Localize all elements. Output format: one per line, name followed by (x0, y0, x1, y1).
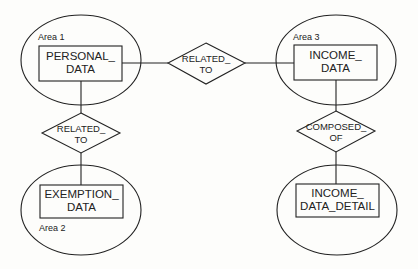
area-1-label: Area 1 (38, 31, 65, 44)
diagram-canvas: Area 1 Area 2 Area 3 PERSONAL_ DATA EXEM… (0, 0, 418, 269)
relationship-top-line1: RELATED_ (171, 53, 241, 64)
entity-exemption-data-label: EXEMPTION_ DATA (40, 188, 123, 214)
relationship-left-line2: TO (46, 134, 116, 145)
relationship-top-label: RELATED_ TO (171, 53, 241, 75)
relationship-right-label: COMPOSED_ OF (301, 121, 371, 143)
area-3-label: Area 3 (293, 31, 320, 44)
relationship-right-line1: COMPOSED_ (301, 121, 371, 132)
entity-personal-data-label: PERSONAL_ DATA (39, 50, 122, 76)
entity-income-data-label: INCOME_ DATA (294, 49, 377, 75)
relationship-right-line2: OF (301, 132, 371, 143)
entity-income-data-detail-line1: INCOME_ (296, 187, 379, 200)
entity-exemption-data-line1: EXEMPTION_ (40, 188, 123, 201)
entity-income-data-line2: DATA (294, 62, 377, 75)
entity-personal-data-line2: DATA (39, 63, 122, 76)
relationship-left-line1: RELATED_ (46, 123, 116, 134)
entity-income-data-detail-label: INCOME_ DATA_DETAIL (296, 187, 379, 213)
entity-income-data-line1: INCOME_ (294, 49, 377, 62)
relationship-left-label: RELATED_ TO (46, 123, 116, 145)
entity-exemption-data-line2: DATA (40, 201, 123, 214)
entity-personal-data-line1: PERSONAL_ (39, 50, 122, 63)
entity-income-data-detail-line2: DATA_DETAIL (296, 200, 379, 213)
area-2-label: Area 2 (39, 222, 66, 235)
relationship-top-line2: TO (171, 64, 241, 75)
